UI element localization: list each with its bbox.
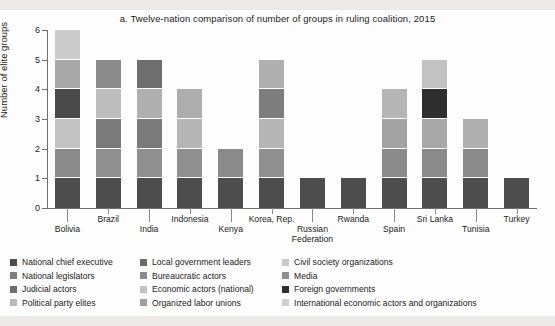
bar-india[interactable] bbox=[137, 60, 162, 208]
bar-segment[interactable] bbox=[137, 60, 162, 90]
bar-segment[interactable] bbox=[96, 60, 121, 90]
legend-label: National legislators bbox=[22, 271, 95, 281]
legend-item[interactable]: Economic actors (national) bbox=[140, 283, 254, 295]
bar-spain[interactable] bbox=[382, 89, 407, 208]
x-tick-mark bbox=[190, 208, 191, 214]
legend-swatch-icon bbox=[282, 259, 289, 266]
x-tick-mark bbox=[476, 208, 477, 222]
legend-label: Foreign governments bbox=[294, 284, 375, 294]
bar-segment[interactable] bbox=[177, 89, 202, 119]
legend-swatch-icon bbox=[282, 272, 289, 279]
y-tick-mark bbox=[42, 149, 47, 150]
legend-label: Political party elites bbox=[22, 298, 96, 308]
bar-segment[interactable] bbox=[300, 178, 325, 208]
legend-swatch-icon bbox=[140, 286, 147, 293]
bar-bolivia[interactable] bbox=[55, 30, 80, 208]
bar-segment[interactable] bbox=[463, 149, 488, 179]
bar-segment[interactable] bbox=[259, 89, 284, 119]
legend-item[interactable]: Judicial actors bbox=[10, 283, 113, 295]
bar-segment[interactable] bbox=[96, 89, 121, 119]
x-tick-label: Rwanda bbox=[337, 214, 369, 224]
x-tick-mark bbox=[272, 208, 273, 214]
legend-item[interactable]: Political party elites bbox=[10, 297, 113, 309]
bar-segment[interactable] bbox=[177, 149, 202, 179]
x-tick-mark bbox=[149, 208, 150, 222]
legend-item[interactable]: Foreign governments bbox=[282, 283, 477, 295]
bar-tunisia[interactable] bbox=[463, 119, 488, 208]
bar-segment[interactable] bbox=[177, 178, 202, 208]
bar-segment[interactable] bbox=[422, 149, 447, 179]
legend-label: National chief executive bbox=[22, 257, 113, 267]
legend-swatch-icon bbox=[10, 299, 17, 306]
bar-segment[interactable] bbox=[55, 30, 80, 60]
bar-segment[interactable] bbox=[463, 119, 488, 149]
legend-label: Media bbox=[294, 271, 317, 281]
x-tick-mark bbox=[353, 208, 354, 214]
y-tick-mark bbox=[42, 60, 47, 61]
legend-item[interactable]: Civil society organizations bbox=[282, 256, 477, 268]
bar-segment[interactable] bbox=[137, 119, 162, 149]
legend-swatch-icon bbox=[140, 299, 147, 306]
bar-segment[interactable] bbox=[259, 119, 284, 149]
bar-segment[interactable] bbox=[382, 119, 407, 149]
x-tick-mark bbox=[231, 208, 232, 222]
bar-segment[interactable] bbox=[382, 89, 407, 119]
bar-segment[interactable] bbox=[422, 89, 447, 119]
bar-brazil[interactable] bbox=[96, 60, 121, 208]
bar-segment[interactable] bbox=[137, 89, 162, 119]
y-tick-label: 6 bbox=[35, 25, 40, 35]
bar-segment[interactable] bbox=[137, 178, 162, 208]
legend-item[interactable]: Media bbox=[282, 270, 477, 282]
bar-segment[interactable] bbox=[422, 60, 447, 90]
bar-russian-federation[interactable] bbox=[300, 178, 325, 208]
x-tick-label: Brazil bbox=[98, 214, 120, 224]
bar-segment[interactable] bbox=[177, 119, 202, 149]
bar-segment[interactable] bbox=[55, 178, 80, 208]
bar-segment[interactable] bbox=[463, 178, 488, 208]
bar-segment[interactable] bbox=[382, 178, 407, 208]
legend-item[interactable]: National chief executive bbox=[10, 256, 113, 268]
bottom-border-band bbox=[0, 316, 555, 326]
bar-segment[interactable] bbox=[55, 149, 80, 179]
x-tick-label: Kenya bbox=[219, 224, 243, 234]
x-tick-label: Sri Lanka bbox=[417, 214, 453, 224]
bar-kenya[interactable] bbox=[218, 149, 243, 208]
y-tick-mark bbox=[42, 178, 47, 179]
bar-segment[interactable] bbox=[259, 178, 284, 208]
bar-segment[interactable] bbox=[382, 149, 407, 179]
bar-segment[interactable] bbox=[55, 60, 80, 90]
bar-segment[interactable] bbox=[55, 119, 80, 149]
bar-segment[interactable] bbox=[137, 149, 162, 179]
legend-swatch-icon bbox=[140, 259, 147, 266]
bar-segment[interactable] bbox=[259, 60, 284, 90]
bar-rwanda[interactable] bbox=[341, 178, 366, 208]
legend-swatch-icon bbox=[282, 299, 289, 306]
legend-item[interactable]: Local government leaders bbox=[140, 256, 254, 268]
legend-label: Civil society organizations bbox=[294, 257, 393, 267]
bar-segment[interactable] bbox=[96, 178, 121, 208]
bar-segment[interactable] bbox=[259, 149, 284, 179]
bar-segment[interactable] bbox=[422, 119, 447, 149]
bar-indonesia[interactable] bbox=[177, 89, 202, 208]
legend-swatch-icon bbox=[10, 272, 17, 279]
x-tick-label: Turkey bbox=[504, 214, 530, 224]
x-tick-mark bbox=[312, 208, 313, 222]
legend-column: National chief executiveNational legisla… bbox=[10, 256, 113, 310]
legend-item[interactable]: International economic actors and organi… bbox=[282, 297, 477, 309]
bar-segment[interactable] bbox=[341, 178, 366, 208]
bar-sri-lanka[interactable] bbox=[422, 60, 447, 208]
x-axis-line bbox=[47, 208, 537, 209]
legend-item[interactable]: National legislators bbox=[10, 270, 113, 282]
bar-segment[interactable] bbox=[96, 149, 121, 179]
bar-segment[interactable] bbox=[96, 119, 121, 149]
bar-segment[interactable] bbox=[55, 89, 80, 119]
bar-turkey[interactable] bbox=[504, 178, 529, 208]
bar-korea-rep[interactable] bbox=[259, 60, 284, 208]
bar-segment[interactable] bbox=[218, 178, 243, 208]
bar-segment[interactable] bbox=[422, 178, 447, 208]
x-tick-label: Spain bbox=[383, 224, 405, 234]
bar-segment[interactable] bbox=[504, 178, 529, 208]
bar-segment[interactable] bbox=[218, 149, 243, 179]
legend-item[interactable]: Bureaucratic actors bbox=[140, 270, 254, 282]
legend-item[interactable]: Organized labor unions bbox=[140, 297, 254, 309]
